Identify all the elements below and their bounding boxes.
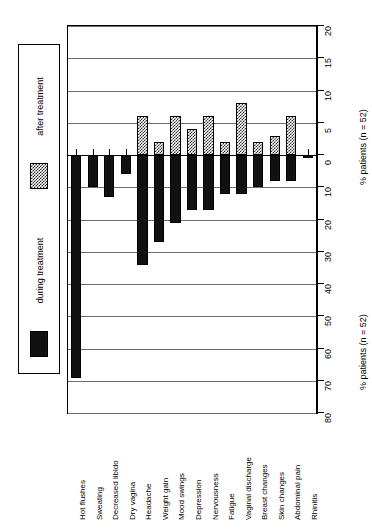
- legend-item-during-treatment: during treatment: [19, 231, 61, 371]
- plot-area: [67, 25, 317, 414]
- bar-group: [299, 26, 316, 413]
- category-label: Depression: [194, 480, 204, 520]
- bar-during-treatment: [236, 155, 246, 194]
- category-label: Fatigue: [227, 493, 237, 520]
- bar-group: [200, 26, 217, 413]
- axis-lower-80-label: 80: [322, 401, 334, 423]
- bar-during-treatment: [220, 155, 230, 194]
- category-label: Nervousness: [211, 473, 221, 520]
- bar-during-treatment: [253, 155, 263, 187]
- category-label: Abdominal pain: [293, 465, 303, 520]
- axis-upper-10-label: 10: [322, 79, 334, 101]
- legend-label-after-treatment: after treatment: [35, 42, 46, 172]
- bar-after-treatment: [137, 116, 147, 155]
- axis-lower-50-label: 50: [322, 304, 334, 326]
- category-label: Breast changes: [260, 464, 270, 520]
- category-label: Rhinitis: [310, 494, 320, 520]
- category-label: Sweating: [95, 487, 105, 520]
- category-label: Dry vagina: [128, 482, 138, 520]
- category-label: Vaginal discharge: [244, 457, 254, 520]
- bar-during-treatment: [303, 155, 313, 158]
- bar-during-treatment: [286, 155, 296, 181]
- axis-upper-20-label: 20: [322, 14, 334, 36]
- axis-lower-60-label: 60: [322, 337, 334, 359]
- axis-upper-5-label: 5: [322, 111, 334, 133]
- value-axis-line: [317, 25, 318, 414]
- bar-group: [250, 26, 267, 413]
- bar-during-treatment: [203, 155, 213, 210]
- bar-during-treatment: [154, 155, 164, 242]
- axis-lower-10-label: 10: [322, 175, 334, 197]
- bar-during-treatment: [270, 155, 280, 181]
- legend-label-during-treatment: during treatment: [35, 206, 46, 336]
- bar-during-treatment: [187, 155, 197, 210]
- chart-figure: after treatment during treatment 2015105…: [0, 0, 372, 529]
- bar-group: [68, 26, 85, 413]
- axis-lower-20-label: 20: [322, 208, 334, 230]
- category-label: Mood swings: [177, 473, 187, 520]
- bar-after-treatment: [203, 116, 213, 155]
- bar-after-treatment: [220, 142, 230, 155]
- axis-upper-15-label: 15: [322, 46, 334, 68]
- bar-series-layer: [68, 26, 316, 413]
- bar-group: [134, 26, 151, 413]
- bar-group: [151, 26, 168, 413]
- bar-during-treatment: [88, 155, 98, 187]
- legend-item-after-treatment: after treatment: [19, 67, 61, 217]
- category-axis-labels: Hot flushesSweatingDecreased libidoDry v…: [67, 416, 317, 524]
- bar-after-treatment: [253, 142, 263, 155]
- bar-group: [184, 26, 201, 413]
- category-label: Headache: [144, 484, 154, 520]
- bar-group: [266, 26, 283, 413]
- bar-group: [283, 26, 300, 413]
- bar-after-treatment: [187, 129, 197, 155]
- bar-during-treatment: [137, 155, 147, 265]
- bar-during-treatment: [71, 155, 81, 378]
- bar-group: [101, 26, 118, 413]
- chart-legend: after treatment during treatment: [18, 44, 60, 374]
- gridline-lower-80: [68, 413, 316, 414]
- axis-lower-40-label: 40: [322, 272, 334, 294]
- bar-after-treatment: [154, 142, 164, 155]
- bar-group: [233, 26, 250, 413]
- axis-zero-label: 0: [322, 143, 334, 165]
- bar-during-treatment: [104, 155, 114, 197]
- bar-after-treatment: [170, 116, 180, 155]
- category-label: Hot flushes: [78, 480, 88, 520]
- category-label: Weight gain: [161, 478, 171, 520]
- bar-after-treatment: [270, 136, 280, 155]
- bar-group: [85, 26, 102, 413]
- category-label: Skin changes: [277, 472, 287, 520]
- bar-during-treatment: [170, 155, 180, 223]
- axis-title-during-treatment: % patients (n = 52): [358, 314, 368, 390]
- bar-after-treatment: [236, 103, 246, 155]
- axis-lower-30-label: 30: [322, 240, 334, 262]
- bar-group: [167, 26, 184, 413]
- bar-group: [118, 26, 135, 413]
- bar-group: [217, 26, 234, 413]
- axis-title-after-treatment: % patients (n = 52): [358, 109, 368, 185]
- category-label: Decreased libido: [111, 460, 121, 520]
- bar-after-treatment: [286, 116, 296, 155]
- bar-during-treatment: [121, 155, 131, 174]
- axis-lower-70-label: 70: [322, 369, 334, 391]
